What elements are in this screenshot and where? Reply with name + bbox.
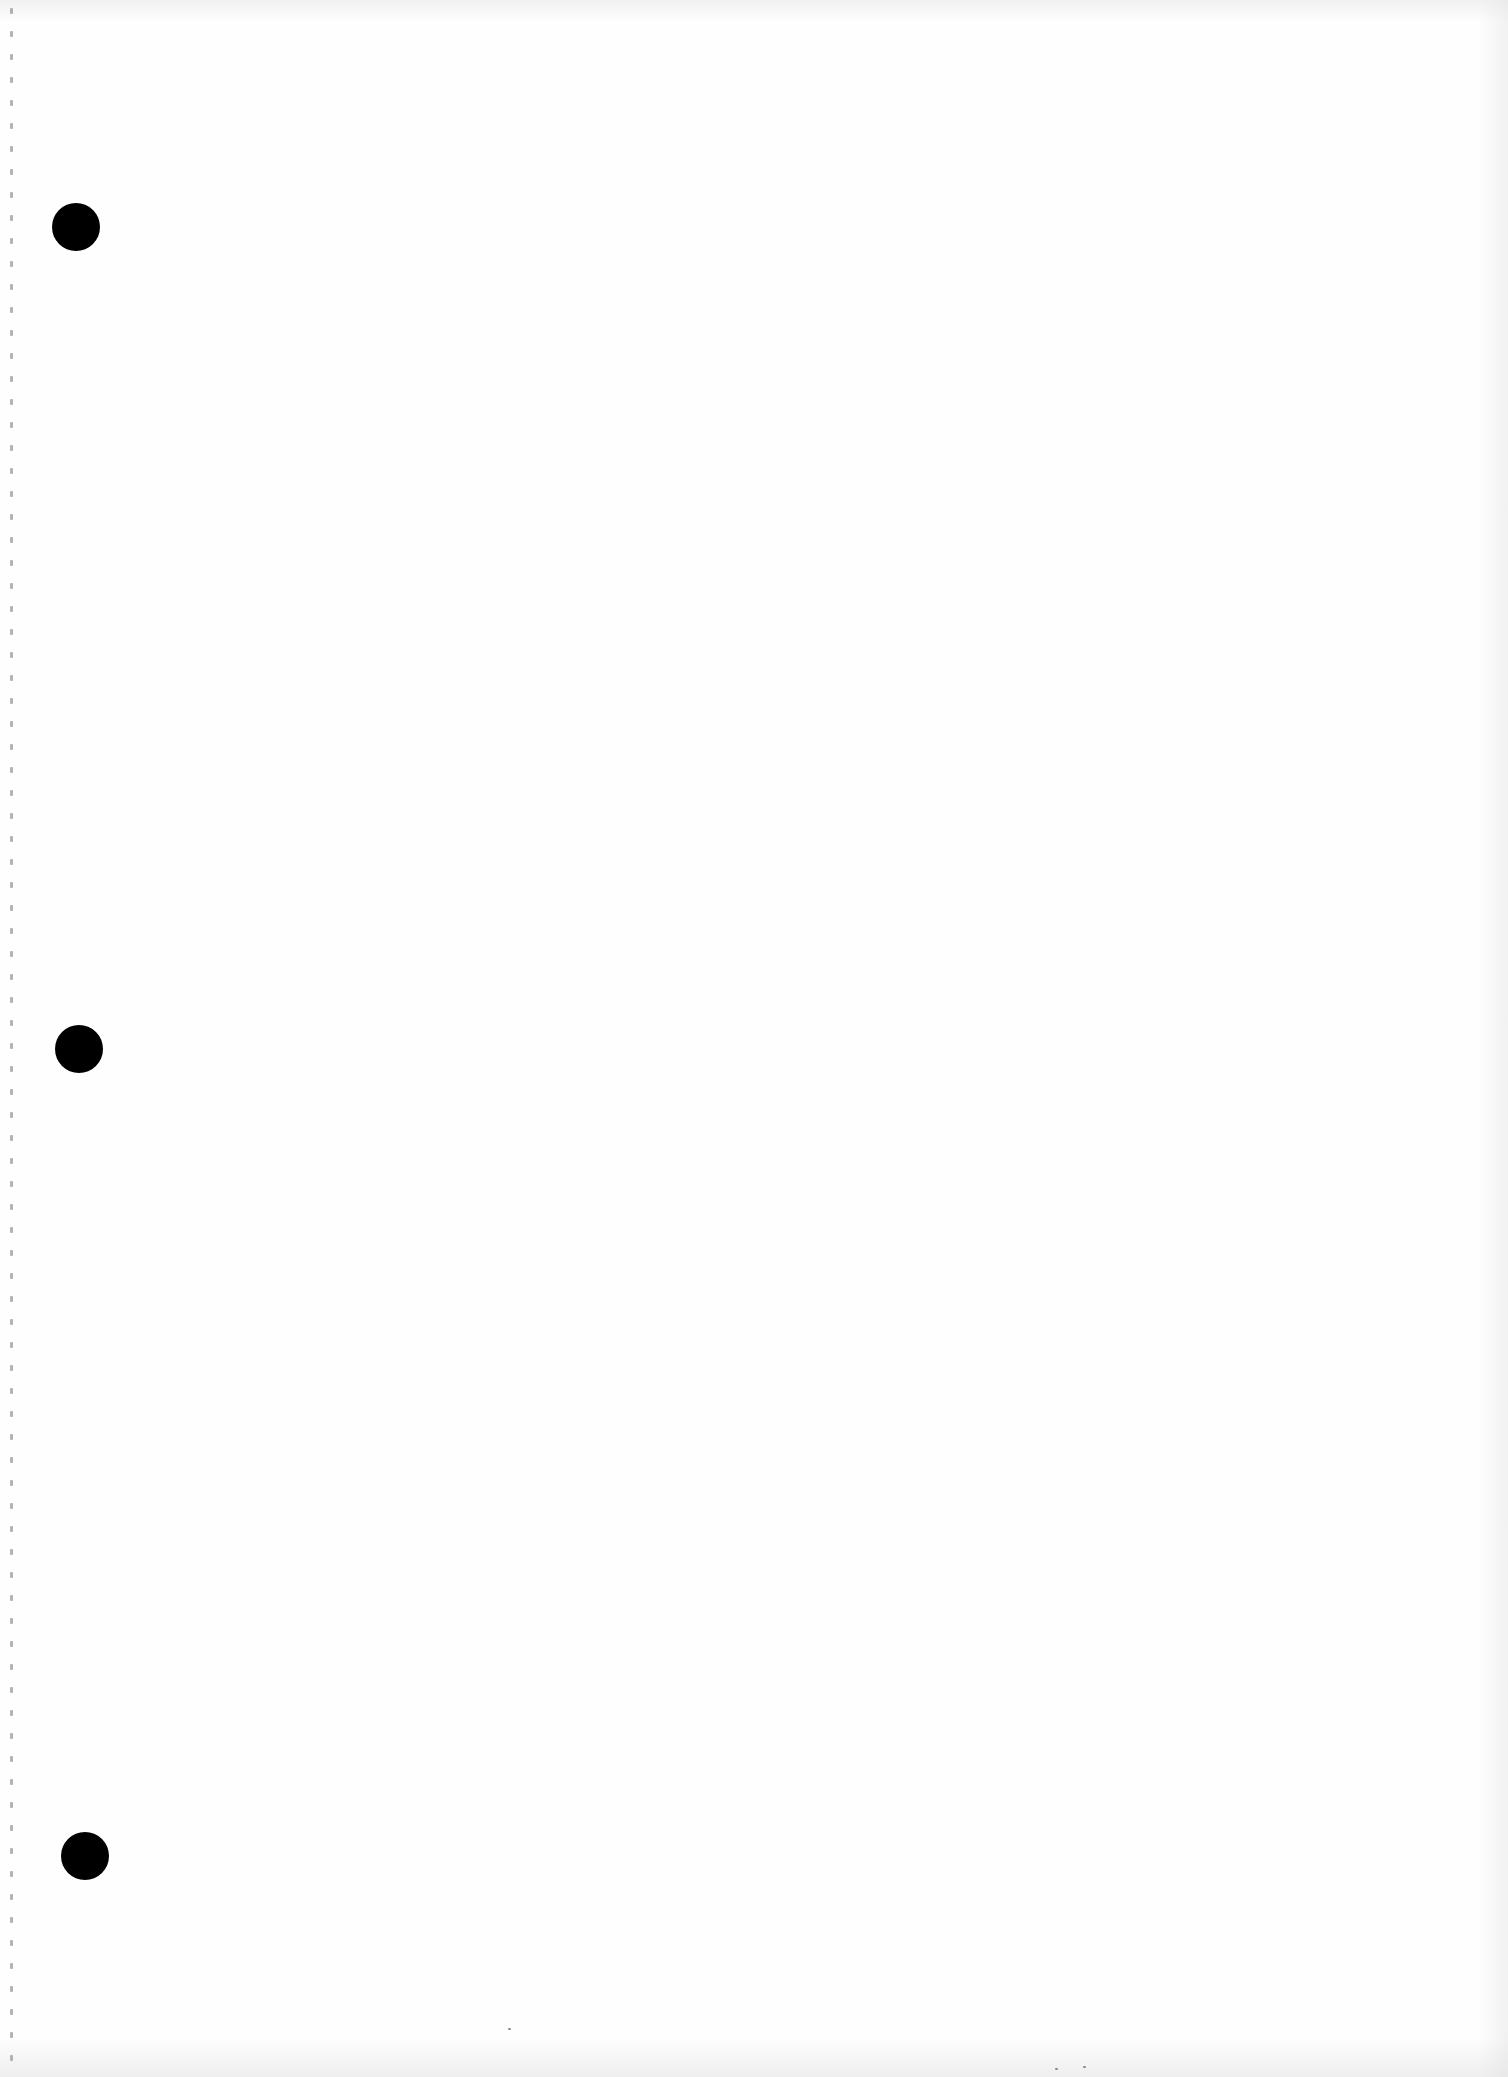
perforation-mark (10, 1871, 13, 1877)
perforation-mark (10, 951, 13, 957)
perforation-mark (10, 721, 13, 727)
perforation-mark (10, 54, 13, 60)
perforation-mark (10, 1917, 13, 1923)
perforation-mark (10, 1388, 13, 1394)
perforation-mark (10, 1181, 13, 1187)
perforation-mark (10, 422, 13, 428)
punch-hole-top (52, 203, 100, 251)
paper-speck (508, 2028, 511, 2030)
perforation-mark (10, 1687, 13, 1693)
perforation-mark (10, 100, 13, 106)
perforation-mark (10, 77, 13, 83)
perforation-mark (10, 1595, 13, 1601)
perforation-mark (10, 445, 13, 451)
perforation-mark (10, 1549, 13, 1555)
perforation-mark (10, 1894, 13, 1900)
perforation-mark (10, 192, 13, 198)
perforation-mark (10, 1986, 13, 1992)
perforation-mark (10, 928, 13, 934)
perforation-mark (10, 1319, 13, 1325)
perforation-mark (10, 307, 13, 313)
perforation-mark (10, 744, 13, 750)
perforation-mark (10, 1204, 13, 1210)
perforation-mark (10, 1641, 13, 1647)
perforation-mark (10, 514, 13, 520)
perforation-mark (10, 1250, 13, 1256)
perforation-mark (10, 1848, 13, 1854)
perforation-mark (10, 629, 13, 635)
perforation-mark (10, 1480, 13, 1486)
punch-hole-bottom (61, 1832, 109, 1880)
perforation-mark (10, 2009, 13, 2015)
perforation-mark (10, 974, 13, 980)
perforation-mark (10, 1572, 13, 1578)
perforation-mark (10, 767, 13, 773)
perforation-mark (10, 1618, 13, 1624)
perforation-mark (10, 905, 13, 911)
perforation-mark (10, 1112, 13, 1118)
perforation-mark (10, 1296, 13, 1302)
perforation-mark (10, 1158, 13, 1164)
perforation-mark (10, 1664, 13, 1670)
perforation-mark (10, 330, 13, 336)
perforation-mark (10, 813, 13, 819)
perforation-mark (10, 698, 13, 704)
perforation-mark (10, 1043, 13, 1049)
perforation-mark (10, 1411, 13, 1417)
perforation-mark (10, 836, 13, 842)
perforation-mark (10, 583, 13, 589)
perforation-mark (10, 169, 13, 175)
perforation-mark (10, 1802, 13, 1808)
perforation-mark (10, 1526, 13, 1532)
paper-speck (1055, 2068, 1058, 2070)
perforation-mark (10, 1227, 13, 1233)
perforation-mark (10, 1733, 13, 1739)
paper-speck (1083, 2066, 1086, 2068)
perforation-mark (10, 1066, 13, 1072)
perforation-mark (10, 468, 13, 474)
perforation-mark (10, 1503, 13, 1509)
perforation-mark (10, 790, 13, 796)
perforation-mark (10, 1273, 13, 1279)
perforation-mark (10, 1089, 13, 1095)
perforation-mark (10, 1756, 13, 1762)
perforation-mark (10, 123, 13, 129)
blank-paper-page (0, 0, 1508, 2077)
perforation-mark (10, 1434, 13, 1440)
perforation-mark (10, 1825, 13, 1831)
perforation-mark (10, 652, 13, 658)
perforation-mark (10, 997, 13, 1003)
perforation-mark (10, 537, 13, 543)
perforation-mark (10, 215, 13, 221)
perforation-mark (10, 606, 13, 612)
perforation-mark (10, 1710, 13, 1716)
perforation-mark (10, 1365, 13, 1371)
perforation-mark (10, 284, 13, 290)
perforation-mark (10, 1963, 13, 1969)
perforation-mark (10, 146, 13, 152)
perforation-mark (10, 376, 13, 382)
perforation-mark (10, 1342, 13, 1348)
perforation-mark (10, 1020, 13, 1026)
perforation-mark (10, 1940, 13, 1946)
perforation-mark (10, 491, 13, 497)
perforation-mark (10, 1457, 13, 1463)
punch-hole-middle (55, 1025, 103, 1073)
perforation-mark (10, 2055, 13, 2061)
perforation-mark (10, 261, 13, 267)
perforation-mark (10, 2032, 13, 2038)
perforation-mark (10, 238, 13, 244)
perforation-mark (10, 675, 13, 681)
left-edge-perforation (10, 0, 15, 2077)
perforation-mark (10, 353, 13, 359)
perforation-mark (10, 1135, 13, 1141)
perforation-mark (10, 882, 13, 888)
perforation-mark (10, 1779, 13, 1785)
perforation-mark (10, 31, 13, 37)
perforation-mark (10, 8, 13, 14)
perforation-mark (10, 399, 13, 405)
perforation-mark (10, 859, 13, 865)
perforation-mark (10, 560, 13, 566)
